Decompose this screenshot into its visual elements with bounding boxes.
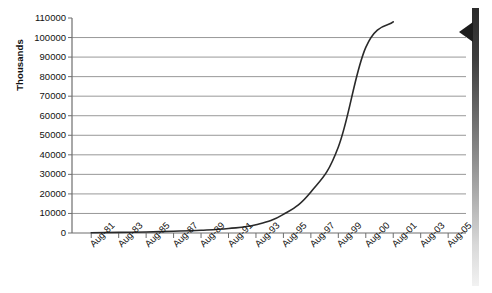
gridlines: [72, 38, 466, 214]
left-arrow-marker[interactable]: [459, 22, 473, 42]
data-series-line: [91, 22, 393, 233]
line-chart: Thousands 110000100000900008000070000600…: [0, 0, 492, 293]
scrollbar-strip[interactable]: [472, 8, 479, 286]
plot-area: [0, 0, 492, 293]
axes: [72, 18, 466, 233]
